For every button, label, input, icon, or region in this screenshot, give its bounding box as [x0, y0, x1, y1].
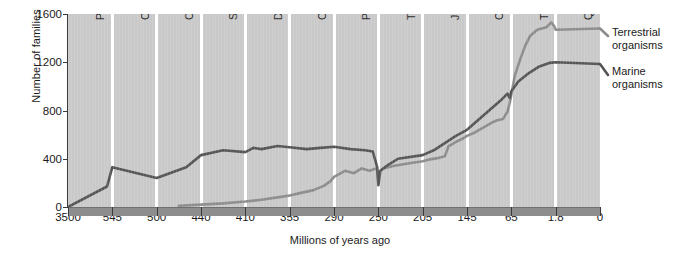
legend-marine-line2: organisms — [612, 78, 663, 91]
legend-terrestrial-line1: Terrestrial — [612, 26, 663, 39]
chart-root: Number of families Millions of years ago… — [0, 0, 681, 256]
legend-leader-lines — [0, 0, 681, 256]
legend-leader — [600, 28, 608, 36]
chart-figure: Number of families Millions of years ago… — [0, 0, 681, 256]
legend-marine-line1: Marine — [612, 65, 663, 78]
legend-leader — [600, 64, 608, 75]
legend-terrestrial: Terrestrial organisms — [612, 26, 663, 52]
legend-terrestrial-line2: organisms — [612, 39, 663, 52]
legend-marine: Marine organisms — [612, 65, 663, 91]
